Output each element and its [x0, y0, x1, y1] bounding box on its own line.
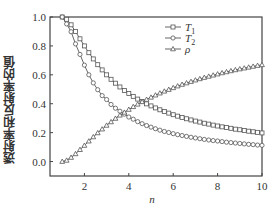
data-point-square-icon [65, 17, 69, 21]
data-point-circle-icon [224, 140, 228, 144]
data-point-circle-icon [202, 137, 206, 141]
data-point-square-icon [109, 77, 113, 81]
data-point-circle-icon [158, 128, 162, 132]
data-point-circle-icon [162, 129, 166, 133]
data-point-circle-icon [233, 141, 237, 145]
data-point-square-icon [251, 130, 255, 134]
data-point-circle-icon [180, 133, 184, 137]
data-point-circle-icon [136, 120, 140, 124]
data-point-circle-icon [131, 117, 135, 121]
data-point-square-icon [171, 113, 175, 117]
data-point-square-icon [176, 114, 180, 118]
legend: T1T2ρ [165, 21, 195, 55]
data-point-circle-icon [78, 52, 82, 56]
data-point-circle-icon [211, 138, 215, 142]
data-point-circle-icon [176, 133, 180, 137]
data-point-square-icon [238, 128, 242, 132]
data-point-square-icon [131, 94, 135, 98]
line-chart: 2468100.00.20.40.60.81.0 T1T2ρ n [0, 0, 278, 215]
data-point-square-icon [105, 73, 109, 77]
data-point-square-icon [260, 131, 264, 135]
y-tick-label: 0.8 [32, 40, 46, 52]
data-point-circle-icon [251, 143, 255, 147]
y-tick-label: 0.0 [32, 156, 46, 168]
data-point-circle-icon [184, 134, 188, 138]
legend-circle-icon [171, 36, 175, 40]
data-point-triangle-icon [260, 62, 265, 66]
data-point-square-icon [207, 122, 211, 126]
data-point-square-icon [202, 121, 206, 125]
data-point-square-icon [69, 23, 73, 27]
data-point-circle-icon [87, 73, 91, 77]
data-point-circle-icon [127, 115, 131, 119]
data-point-circle-icon [247, 142, 251, 146]
x-axis-label: n [149, 193, 155, 205]
data-point-square-icon [149, 104, 153, 108]
y-tick-label: 0.2 [32, 127, 46, 139]
data-point-circle-icon [153, 127, 157, 131]
x-tick-label: 2 [82, 180, 88, 192]
data-point-square-icon [224, 126, 228, 130]
data-point-circle-icon [255, 143, 259, 147]
data-point-square-icon [247, 129, 251, 133]
data-point-circle-icon [149, 125, 153, 129]
data-point-square-icon [78, 37, 82, 41]
data-point-circle-icon [193, 136, 197, 140]
data-point-circle-icon [238, 141, 242, 145]
data-point-circle-icon [220, 139, 224, 143]
y-tick-label: 1.0 [32, 11, 46, 23]
data-point-square-icon [193, 119, 197, 123]
data-point-square-icon [189, 118, 193, 122]
data-point-square-icon [242, 128, 246, 132]
legend-label: ρ [184, 43, 190, 55]
legend-item: T2 [165, 32, 195, 47]
data-point-square-icon [162, 110, 166, 114]
data-point-triangle-icon [64, 158, 69, 162]
data-point-circle-icon [96, 88, 100, 92]
data-point-circle-icon [144, 123, 148, 127]
y-tick-label: 0.4 [32, 98, 46, 110]
data-point-square-icon [118, 85, 122, 89]
data-point-circle-icon [140, 122, 144, 126]
x-tick-label: 4 [126, 180, 132, 192]
data-point-circle-icon [216, 139, 220, 143]
series-line [62, 17, 262, 133]
data-point-square-icon [158, 108, 162, 112]
data-point-triangle-icon [118, 113, 123, 117]
data-point-circle-icon [260, 143, 264, 147]
data-point-triangle-icon [122, 110, 127, 114]
x-tick-label: 6 [170, 180, 176, 192]
data-point-square-icon [122, 88, 126, 92]
data-point-square-icon [198, 120, 202, 124]
data-point-square-icon [153, 106, 157, 110]
x-tick-label: 8 [215, 180, 221, 192]
data-point-square-icon [91, 57, 95, 61]
data-point-square-icon [100, 68, 104, 72]
data-point-circle-icon [73, 42, 77, 46]
data-point-square-icon [82, 44, 86, 48]
data-point-square-icon [113, 81, 117, 85]
plot-series [60, 15, 265, 163]
data-point-triangle-icon [113, 116, 118, 120]
legend-item: ρ [165, 43, 190, 55]
data-point-circle-icon [60, 15, 64, 19]
data-point-circle-icon [198, 137, 202, 141]
data-point-square-icon [145, 102, 149, 106]
data-point-square-icon [216, 124, 220, 128]
data-point-square-icon [180, 115, 184, 119]
legend-square-icon [171, 25, 175, 29]
data-point-circle-icon [113, 106, 117, 110]
data-point-circle-icon [242, 142, 246, 146]
data-point-square-icon [211, 123, 215, 127]
data-point-circle-icon [100, 94, 104, 98]
y-axis-label: 透射率和反射率的值 [4, 40, 18, 180]
x-tick-label: 10 [257, 180, 269, 192]
data-point-circle-icon [91, 81, 95, 85]
data-point-square-icon [220, 125, 224, 129]
data-point-circle-icon [171, 132, 175, 136]
data-point-square-icon [87, 51, 91, 55]
plot-axes: 2468100.00.20.40.60.81.0 [32, 11, 268, 192]
data-point-triangle-icon [126, 107, 131, 111]
data-point-circle-icon [82, 63, 86, 67]
data-point-circle-icon [109, 102, 113, 106]
